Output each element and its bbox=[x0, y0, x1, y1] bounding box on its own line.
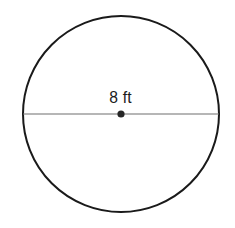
figure-canvas: 8 ft bbox=[0, 0, 235, 228]
circle-diagram bbox=[0, 0, 235, 228]
diameter-label: 8 ft bbox=[12, 89, 228, 106]
center-dot bbox=[117, 110, 124, 117]
